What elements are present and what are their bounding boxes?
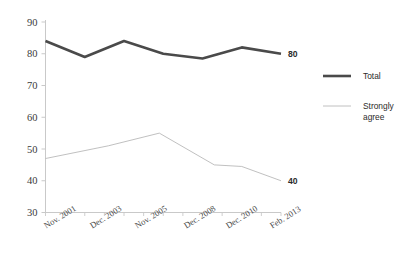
legend-label-strongly-agree: Strongly [363, 101, 395, 111]
y-axis-ticks [42, 22, 46, 213]
x-tick-label-text: Dec. 2010 [224, 203, 259, 230]
series-lines [46, 41, 282, 181]
y-tick-label: 90 [27, 17, 38, 28]
x-tick-label-text: Nov. 2005 [133, 203, 169, 230]
y-tick-label: 60 [27, 112, 38, 123]
chart-canvas: 30405060708090 Nov. 2001Dec. 2003Nov. 20… [0, 0, 411, 269]
legend-label-strongly-agree-line2: agree [363, 112, 385, 122]
x-axis-tick-labels: Nov. 2001Dec. 2003Nov. 2005Dec. 2008Dec.… [42, 203, 302, 230]
x-tick-label-text: Nov. 2001 [42, 203, 78, 230]
y-tick-label: 30 [27, 207, 38, 218]
y-tick-label: 70 [27, 80, 38, 91]
y-tick-label: 40 [27, 175, 38, 186]
end-label-strongly-agree: 40 [288, 176, 298, 186]
y-axis-tick-labels: 30405060708090 [27, 17, 38, 219]
line-chart: 30405060708090 Nov. 2001Dec. 2003Nov. 20… [0, 0, 411, 269]
y-tick-label: 50 [27, 144, 38, 155]
legend-label-total: Total [363, 71, 381, 81]
x-tick-label: Nov. 2001 [42, 203, 78, 230]
legend: TotalStronglyagree [323, 71, 395, 122]
x-tick-label-text: Dec. 2008 [182, 203, 217, 230]
end-label-total: 80 [288, 49, 298, 59]
x-tick-label: Dec. 2008 [182, 203, 217, 230]
x-tick-label: Feb. 2013 [268, 204, 302, 231]
x-tick-label-text: Dec. 2003 [88, 203, 123, 230]
series-end-labels: 8040 [288, 49, 298, 186]
x-tick-label: Nov. 2005 [133, 203, 169, 230]
x-tick-label: Dec. 2010 [224, 203, 259, 230]
y-tick-label: 80 [27, 48, 38, 59]
x-tick-label: Dec. 2003 [88, 203, 123, 230]
series-line-total [46, 41, 282, 58]
series-line-strongly-agree [46, 133, 282, 181]
x-tick-label-text: Feb. 2013 [268, 204, 302, 231]
